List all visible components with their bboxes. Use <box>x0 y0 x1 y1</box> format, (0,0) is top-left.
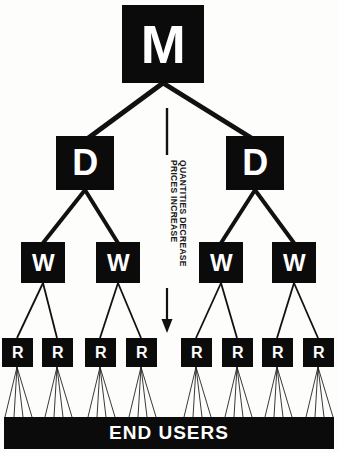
connector-line <box>277 283 294 338</box>
annotation-quantities-decrease: QUANTITIES DECREASE <box>178 160 188 267</box>
connector-line <box>141 367 147 417</box>
node-retailer-6[interactable]: R <box>222 338 253 367</box>
connector-line <box>17 367 32 417</box>
connector-line <box>100 367 106 417</box>
node-distributor-1[interactable]: D <box>56 136 114 190</box>
connector-line <box>87 83 163 139</box>
connector-line <box>277 367 283 417</box>
diagram-canvas: M D D W W W W R R R R R R R R PRICES INC… <box>0 0 339 453</box>
node-wholesaler-3[interactable]: W <box>199 242 243 283</box>
connector-line <box>221 283 237 338</box>
connector-line <box>237 367 243 417</box>
connector-line <box>118 283 141 338</box>
end-users-bar[interactable]: END USERS <box>4 417 334 449</box>
node-retailer-3[interactable]: R <box>85 338 116 367</box>
node-wholesaler-1[interactable]: W <box>21 242 65 283</box>
connector-line <box>85 190 118 243</box>
connector-line <box>43 283 57 338</box>
connector-line <box>100 367 115 417</box>
connector-line <box>196 367 211 417</box>
connector-line <box>196 367 202 417</box>
node-wholesaler-4[interactable]: W <box>272 242 316 283</box>
node-manufacturer[interactable]: M <box>122 5 204 83</box>
connector-line <box>237 367 252 417</box>
connector-line <box>294 283 318 338</box>
node-retailer-2[interactable]: R <box>42 338 73 367</box>
node-retailer-4[interactable]: R <box>126 338 157 367</box>
connector-line <box>57 367 63 417</box>
connector-m-to-d <box>87 83 253 139</box>
connector-line <box>318 367 324 417</box>
node-distributor-2[interactable]: D <box>226 136 284 190</box>
node-retailer-1[interactable]: R <box>2 338 33 367</box>
connector-line <box>255 190 294 243</box>
connector-line <box>196 283 221 338</box>
connector-line <box>17 283 43 338</box>
connector-line <box>100 283 118 338</box>
connector-line <box>17 367 23 417</box>
connector-line <box>221 190 255 243</box>
connector-line <box>277 367 292 417</box>
node-retailer-8[interactable]: R <box>303 338 334 367</box>
connector-line <box>43 190 85 243</box>
node-retailer-5[interactable]: R <box>181 338 212 367</box>
node-retailer-7[interactable]: R <box>262 338 293 367</box>
connector-line <box>141 367 156 417</box>
connector-line <box>57 367 72 417</box>
connector-line <box>163 83 253 139</box>
connector-line <box>318 367 333 417</box>
node-wholesaler-2[interactable]: W <box>96 242 140 283</box>
connector-r-to-end-users <box>5 367 333 417</box>
down-arrow-icon <box>162 288 173 333</box>
